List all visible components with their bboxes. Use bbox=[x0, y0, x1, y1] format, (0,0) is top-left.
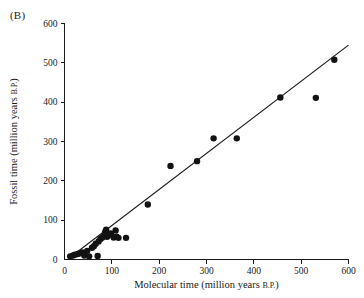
data-point bbox=[313, 95, 319, 101]
x-axis-title: Molecular time (million years B.P.) bbox=[134, 279, 279, 291]
data-point bbox=[234, 135, 240, 141]
data-point bbox=[331, 56, 337, 62]
data-point bbox=[167, 163, 173, 169]
y-tick-label: 200 bbox=[43, 176, 58, 186]
data-point bbox=[115, 235, 121, 241]
y-axis-ticks: 0100200300400500600 bbox=[43, 19, 64, 265]
data-points-group bbox=[67, 56, 338, 259]
x-tick-label: 400 bbox=[247, 266, 262, 276]
x-tick-label: 500 bbox=[294, 266, 309, 276]
y-tick-label: 300 bbox=[43, 137, 58, 147]
figure-panel-b: (B) 010020030040050060001002003004005006… bbox=[0, 0, 364, 298]
y-tick-label: 400 bbox=[43, 97, 58, 107]
regression-line bbox=[68, 45, 348, 259]
y-axis-title: Fossil time (million years B.P.) bbox=[8, 78, 20, 205]
data-point bbox=[145, 201, 151, 207]
x-tick-label: 200 bbox=[152, 266, 167, 276]
y-tick-label: 100 bbox=[43, 215, 58, 225]
data-point bbox=[86, 253, 92, 259]
x-axis-ticks: 0100200300400500600 bbox=[62, 260, 356, 276]
x-tick-label: 600 bbox=[341, 266, 356, 276]
x-tick-label: 300 bbox=[199, 266, 214, 276]
data-point bbox=[194, 158, 200, 164]
data-point bbox=[277, 94, 283, 100]
x-tick-label: 100 bbox=[105, 266, 120, 276]
data-point bbox=[123, 235, 129, 241]
axis-spines bbox=[65, 24, 349, 260]
axes-group bbox=[65, 24, 349, 260]
data-point bbox=[210, 135, 216, 141]
y-tick-label: 0 bbox=[53, 255, 58, 265]
scatter-plot: 01002003004005006000100200300400500600Mo… bbox=[0, 0, 364, 298]
y-tick-label: 600 bbox=[43, 19, 58, 29]
y-tick-label: 500 bbox=[43, 58, 58, 68]
data-point bbox=[112, 227, 118, 233]
x-tick-label: 0 bbox=[62, 266, 67, 276]
data-point bbox=[94, 253, 100, 259]
